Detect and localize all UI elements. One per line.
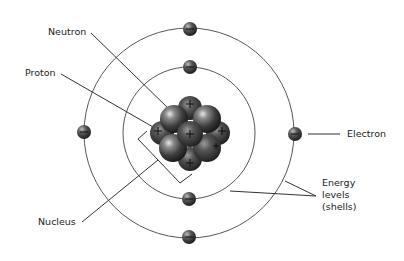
neutron-label: Neutron	[48, 26, 86, 38]
nucleus	[150, 96, 230, 171]
energy-levels-line-3: (shells)	[322, 201, 356, 213]
proton-label: Proton	[25, 67, 56, 79]
energy-levels-line-1: Energy	[322, 177, 356, 189]
electron-particle	[182, 230, 196, 244]
electron-particle	[77, 125, 91, 139]
electron-particle	[183, 60, 197, 74]
energy-levels-line-2: levels	[322, 189, 356, 201]
electron-label: Electron	[347, 128, 386, 140]
nucleus-label: Nucleus	[38, 216, 76, 228]
electron-particle	[182, 192, 196, 206]
electron-particle	[288, 127, 302, 141]
energy-levels-leader-outer	[285, 181, 316, 196]
energy-levels-label: Energy levels (shells)	[322, 177, 356, 213]
electron-particle	[183, 22, 197, 36]
proton-leader-line	[61, 74, 160, 131]
